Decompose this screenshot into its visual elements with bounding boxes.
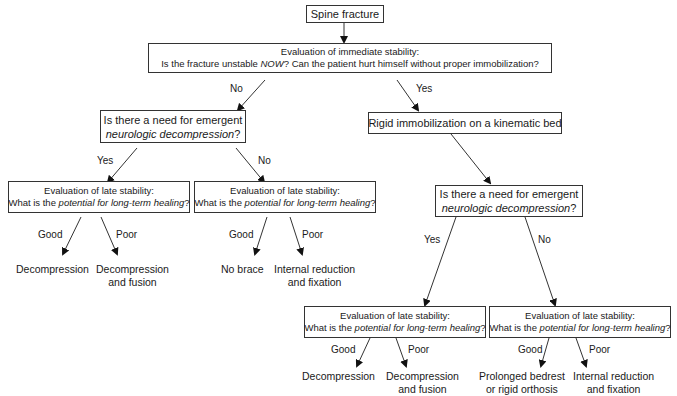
edge-label-no: No [230,83,243,95]
node-line-2: What is the potential for long-term heal… [8,197,189,209]
text: ? [370,197,375,208]
left-decompression-question-node: Is there a need for emergent neurologic … [100,110,246,143]
edge-label-poor: Poor [408,344,429,356]
rigid-immobilization-node: Rigid immobilization on a kinematic bed [368,112,562,134]
node-line-1: Evaluation of immediate stability: [281,46,419,58]
text: and fusion [108,276,156,288]
outcome-internal-reduction: Internal reductionand fixation [274,263,355,289]
spine-fracture-node: Spine fracture [306,5,384,23]
node-line-2: What is the potential for long-term heal… [304,322,485,334]
emphasis: neurologic decompression [442,202,570,214]
outcome-decompression: Decompression [16,263,89,276]
node-line-1: Evaluation of late stability: [230,185,340,197]
node-label: Spine fracture [311,7,379,21]
node-label: Rigid immobilization on a kinematic bed [368,116,561,130]
node-line-1: Is there a need for emergent [104,113,243,127]
node-line-1: Evaluation of late stability: [340,310,450,322]
node-line-2: What is the potential for long-term heal… [489,322,670,334]
edge-label-poor: Poor [116,229,137,241]
text: Internal reduction [573,370,654,382]
outcome-decompression: Decompression [302,370,375,383]
edge-label-no: No [258,155,271,167]
outcome-prolonged-bedrest: Prolonged bedrestor rigid orthosis [479,370,565,396]
edge-label-yes: Yes [424,234,440,246]
edge-label-good: Good [38,229,62,241]
late-stability-node-3: Evaluation of late stability: What is th… [304,306,486,338]
outcome-decompression-and-fusion: Decompressionand fusion [386,370,459,396]
text: Decompression [96,263,169,275]
text: and fusion [398,383,446,395]
text: What is the [489,322,539,333]
emphasis: potential for long-term healing [540,322,666,333]
text: Decompression [302,370,375,382]
text: ? Can the patient hurt himself without p… [284,58,539,69]
edge-label-no: No [538,234,551,246]
node-line-2: Is the fracture unstable NOW? Can the pa… [161,58,539,70]
late-stability-node-4: Evaluation of late stability: What is th… [489,306,671,338]
node-line-2: neurologic decompression? [106,127,241,141]
outcome-internal-reduction: Internal reductionand fixation [573,370,654,396]
node-line-1: Evaluation of late stability: [525,310,635,322]
text: ? [234,128,240,140]
edge-label-good: Good [518,344,542,356]
text: What is the [194,197,244,208]
node-line-2: neurologic decompression? [442,201,577,215]
emphasis: potential for long-term healing [59,197,185,208]
text: ? [570,202,576,214]
edge-label-good: Good [331,344,355,356]
text: and fixation [288,276,342,288]
text: No brace [221,263,264,275]
emphasis: potential for long-term healing [245,197,371,208]
text: Decompression [16,263,89,275]
text: ? [480,322,485,333]
text: What is the [304,322,354,333]
text: Decompression [386,370,459,382]
outcome-no-brace: No brace [221,263,264,276]
edge-label-yes: Yes [97,155,113,167]
node-line-1: Is there a need for emergent [440,187,579,201]
text: ? [665,322,670,333]
text: Prolonged bedrest [479,370,565,382]
text: Is the fracture unstable [161,58,260,69]
text: and fixation [587,383,641,395]
late-stability-node-2: Evaluation of late stability: What is th… [194,181,376,213]
node-line-1: Evaluation of late stability: [44,185,154,197]
edge-label-yes: Yes [416,83,432,95]
outcome-decompression-and-fusion: Decompressionand fusion [96,263,169,289]
emphasis: NOW [261,58,284,69]
emphasis: neurologic decompression [106,128,234,140]
immediate-stability-node: Evaluation of immediate stability: Is th… [148,43,552,73]
edge-label-poor: Poor [302,229,323,241]
text: or rigid orthosis [486,383,558,395]
emphasis: potential for long-term healing [355,322,481,333]
text: What is the [8,197,58,208]
edge-label-poor: Poor [589,344,610,356]
edge-label-good: Good [229,229,253,241]
text: Internal reduction [274,263,355,275]
text: ? [184,197,189,208]
right-decompression-question-node: Is there a need for emergent neurologic … [435,185,583,217]
late-stability-node-1: Evaluation of late stability: What is th… [8,181,190,213]
node-line-2: What is the potential for long-term heal… [194,197,375,209]
